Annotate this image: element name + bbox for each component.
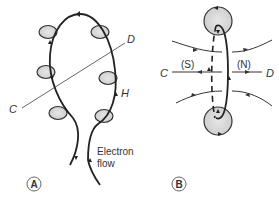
label-south: (S) (181, 59, 194, 70)
badge-a: A (30, 179, 37, 190)
label-c-b: C (160, 67, 168, 79)
label-c-a: C (9, 103, 17, 115)
electron-flow-label-2: flow (97, 158, 116, 169)
panel-b: C D (S) (N) B (160, 6, 274, 191)
field-lines (172, 40, 272, 106)
label-north: (N) (237, 59, 251, 70)
figure-canvas: C D H Electron flow A (0, 0, 279, 197)
electron-flow-label-1: Electron (97, 146, 134, 157)
label-d-b: D (266, 67, 274, 79)
badge-b: B (175, 179, 182, 190)
label-h: H (121, 87, 129, 99)
label-d-a: D (127, 33, 135, 45)
panel-a: C D H Electron flow A (9, 11, 135, 191)
field-loop-icon (37, 26, 117, 123)
